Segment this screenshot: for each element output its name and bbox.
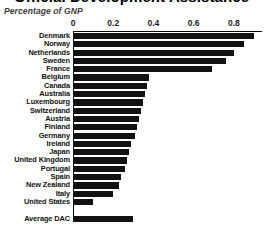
bar-row: Australia: [73, 90, 262, 98]
bar-rows: DenmarkNorwayNetherlandsSwedenFranceBelg…: [73, 32, 262, 223]
bar: [73, 216, 133, 222]
x-tick-label: 0.2: [107, 18, 119, 28]
chart-figure: Official Development Assistance Percenta…: [0, 0, 266, 249]
bar: [73, 58, 226, 64]
plot-area: 00.20.40.60.8 DenmarkNorwayNetherlandsSw…: [73, 31, 262, 243]
bar: [73, 91, 145, 97]
bar-row: Switzerland: [73, 107, 262, 115]
bar-row: United States: [73, 198, 262, 206]
bar: [73, 83, 147, 89]
row-spacer: [73, 206, 262, 214]
bar-row: Canada: [73, 82, 262, 90]
bar-row: Denmark: [73, 32, 262, 40]
bar: [73, 174, 121, 180]
bar: [73, 116, 139, 122]
bar: [73, 149, 129, 155]
bar: [73, 50, 234, 56]
bar: [73, 199, 93, 205]
bar: [73, 191, 113, 197]
bar-row: United Kingdom: [73, 156, 262, 164]
x-tick-label: 0: [71, 18, 76, 28]
bar-row: Netherlands: [73, 49, 262, 57]
x-tick-label: 0.8: [228, 18, 240, 28]
bar-row: Italy: [73, 190, 262, 198]
bar-row: Germany: [73, 132, 262, 140]
bar-row: Ireland: [73, 140, 262, 148]
bar-category-label: United States: [24, 198, 70, 206]
bar-row: New Zealand: [73, 181, 262, 189]
bar: [73, 124, 137, 130]
bar-row: Average DAC: [73, 215, 262, 223]
bar-row: Austria: [73, 115, 262, 123]
x-tick-label: 0.4: [148, 18, 160, 28]
bar: [73, 166, 125, 172]
bar: [73, 141, 131, 147]
bar-row: Portugal: [73, 165, 262, 173]
bar: [73, 108, 141, 114]
bar-row: Luxembourg: [73, 98, 262, 106]
bar: [73, 99, 143, 105]
x-tick-label: 0.6: [188, 18, 200, 28]
bar: [73, 41, 244, 47]
bar: [73, 74, 149, 80]
bar-row: Finland: [73, 123, 262, 131]
bar-row: Sweden: [73, 57, 262, 65]
chart-title: Official Development Assistance: [14, 0, 260, 5]
bar: [73, 33, 254, 39]
bar-row: France: [73, 65, 262, 73]
bar: [73, 182, 119, 188]
bar-row: Spain: [73, 173, 262, 181]
bar-row: Japan: [73, 148, 262, 156]
chart-subtitle: Percentage of GNP: [4, 6, 83, 16]
bar-category-label: Average DAC: [24, 215, 70, 223]
bar: [73, 66, 212, 72]
bar-row: Belgium: [73, 73, 262, 81]
bar: [73, 133, 135, 139]
bar-row: Norway: [73, 40, 262, 48]
bar: [73, 157, 127, 163]
